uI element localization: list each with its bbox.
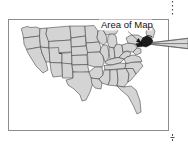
state-kansas	[72, 55, 88, 65]
state-new-mexico	[62, 63, 73, 78]
state-nebraska	[71, 46, 88, 56]
area-of-map-label: Area of Map	[101, 19, 153, 30]
state-oklahoma	[72, 65, 89, 73]
us-map-figure: Area of Map	[0, 0, 188, 144]
state-iowa	[86, 42, 101, 53]
map-figure-screenshot: Area of Map	[0, 0, 188, 144]
state-south-dakota	[71, 36, 86, 47]
state-montana	[46, 26, 71, 42]
